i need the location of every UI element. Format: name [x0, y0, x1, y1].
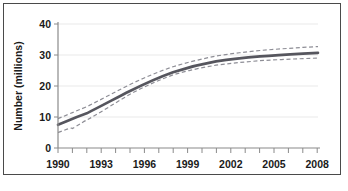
xtick-label-1996: 1996 [133, 158, 157, 170]
xtick-label-1993: 1993 [90, 158, 114, 170]
gridlines [58, 24, 318, 117]
figure-container: 40 30 20 10 0 1990 1993 1996 1999 2002 2… [0, 0, 348, 191]
y-axis-tick-labels: 40 30 20 10 0 [39, 18, 51, 154]
ytick-label-0: 0 [45, 142, 51, 154]
series-estimate [58, 53, 318, 125]
xtick-label-2005: 2005 [262, 158, 286, 170]
xtick-label-1999: 1999 [176, 158, 200, 170]
ytick-label-30: 30 [39, 49, 51, 61]
series-lower-bound [58, 58, 318, 132]
x-axis-ticks [58, 148, 317, 153]
xtick-label-2002: 2002 [219, 158, 243, 170]
x-axis-tick-labels: 1990 1993 1996 1999 2002 2005 2008 [46, 158, 329, 170]
ytick-label-10: 10 [39, 111, 51, 123]
line-chart: 40 30 20 10 0 1990 1993 1996 1999 2002 2… [0, 0, 348, 191]
ytick-label-40: 40 [39, 18, 51, 30]
xtick-label-2008: 2008 [306, 158, 330, 170]
xtick-label-1990: 1990 [46, 158, 70, 170]
y-axis-title: Number (millions) [12, 41, 24, 130]
ytick-label-20: 20 [39, 80, 51, 92]
